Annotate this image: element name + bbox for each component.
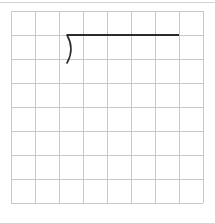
grid-paper (0, 0, 215, 223)
grid-lines (11, 11, 204, 204)
bracket-curve (67, 35, 71, 63)
